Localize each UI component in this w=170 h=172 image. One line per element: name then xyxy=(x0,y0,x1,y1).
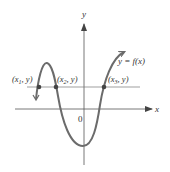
point-x3 xyxy=(102,85,107,90)
point-x1-label: (x1, y) xyxy=(12,74,33,85)
curve-label: y = f(x) xyxy=(117,56,145,66)
function-graph: x y 0 (x1, y) (x2, y) (x3, y) y = f(x) xyxy=(0,0,170,172)
origin-label: 0 xyxy=(78,114,83,124)
point-x2-label: (x2, y) xyxy=(57,74,78,85)
y-axis-label: y xyxy=(81,9,86,19)
x-axis-label: x xyxy=(154,104,159,114)
point-x1 xyxy=(37,85,42,90)
function-curve xyxy=(36,52,124,146)
point-x3-label: (x3, y) xyxy=(108,74,129,85)
point-x2 xyxy=(54,85,59,90)
